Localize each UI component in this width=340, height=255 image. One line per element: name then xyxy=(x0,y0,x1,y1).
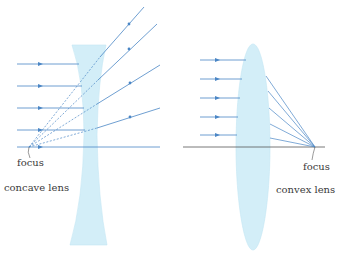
concave-focus-label: focus xyxy=(17,157,44,168)
concave-lens xyxy=(70,45,107,245)
convex-refracted-rays xyxy=(266,76,315,147)
convex-focus-label: focus xyxy=(303,161,330,172)
concave-lens-diagram xyxy=(17,7,160,245)
concave-incoming-rays xyxy=(17,64,85,130)
convex-ray-arrow-icons xyxy=(215,58,220,137)
convex-focus-leader xyxy=(312,147,315,160)
convex-lens-diagram xyxy=(183,44,325,250)
concave-refracted-arrow-icons xyxy=(128,23,132,119)
convex-lens-caption: convex lens xyxy=(276,184,335,195)
concave-lens-caption: concave lens xyxy=(4,182,69,193)
lens-diagram xyxy=(0,0,340,255)
